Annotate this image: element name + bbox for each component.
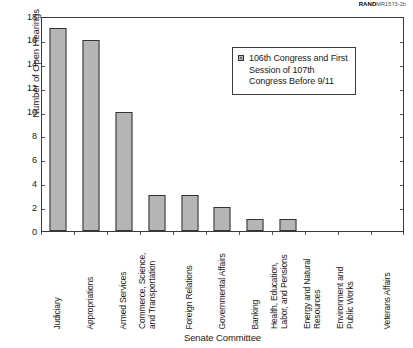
- x-label-slot: Energy and NaturalResources: [305, 237, 338, 329]
- x-tick-mark: [272, 232, 305, 236]
- y-tick-mark: [400, 137, 403, 138]
- y-tick-mark: [400, 114, 403, 115]
- x-label-slot: Judiciary: [41, 237, 74, 329]
- bar: [214, 207, 231, 231]
- x-tick-label: Governmental Affairs: [218, 253, 228, 329]
- watermark-code: MR1573-2b: [376, 1, 406, 7]
- x-tick-mark: [371, 232, 404, 236]
- y-tick-mark: [400, 66, 403, 67]
- x-tick-mark: [206, 232, 239, 236]
- x-label-slot: Banking: [239, 237, 272, 329]
- y-tick-mark: [400, 90, 403, 91]
- x-axis-ticks: [41, 232, 404, 236]
- x-tick-label: Banking: [251, 299, 261, 329]
- y-tick-mark: [42, 185, 45, 186]
- bar-slot: [42, 18, 75, 231]
- bar-slot: [108, 18, 141, 231]
- bar: [181, 195, 198, 231]
- y-tick-label: 4: [14, 180, 37, 189]
- bar: [83, 40, 100, 231]
- x-tick-label-line: and Transportation: [147, 253, 157, 329]
- x-tick-label-line: Commerce, Science,: [137, 253, 147, 329]
- x-tick-mark: [41, 232, 74, 236]
- chart-legend: 106th Congress and First Session of 107t…: [232, 47, 356, 95]
- x-tick-label: Health, Education,Labor, and Pensions: [269, 254, 288, 329]
- x-tick-label-line: Health, Education,: [269, 254, 279, 329]
- x-tick-label-line: Armed Services: [119, 271, 129, 329]
- x-tick-mark: [107, 232, 140, 236]
- y-tick-label: 14: [14, 60, 37, 69]
- x-tick-label: Energy and NaturalResources: [302, 258, 321, 329]
- x-tick-label-line: Veterans Affairs: [383, 272, 393, 329]
- x-tick-mark: [74, 232, 107, 236]
- y-tick-mark: [42, 66, 45, 67]
- x-tick-mark: [173, 232, 206, 236]
- y-tick-mark: [42, 42, 45, 43]
- x-label-slot: Armed Services: [107, 237, 140, 329]
- y-tick-label: 16: [14, 36, 37, 45]
- x-label-slot: Foreign Relations: [173, 237, 206, 329]
- x-tick-label: Judiciary: [53, 297, 63, 329]
- x-tick-label-line: Environment and: [335, 267, 345, 329]
- y-tick-mark: [400, 161, 403, 162]
- x-tick-label-line: Banking: [251, 299, 261, 329]
- rand-watermark: RANDMR1573-2b: [359, 1, 406, 7]
- y-tick-label: 6: [14, 156, 37, 165]
- y-tick-mark: [400, 209, 403, 210]
- y-tick-label: 8: [14, 132, 37, 141]
- x-tick-label: Appropriations: [86, 276, 96, 329]
- bar-slot: [370, 18, 403, 231]
- bar: [148, 195, 165, 231]
- x-label-slot: Environment andPublic Works: [338, 237, 371, 329]
- y-tick-mark: [400, 185, 403, 186]
- y-tick-mark: [400, 42, 403, 43]
- y-tick-label: 18: [14, 13, 37, 22]
- x-label-slot: Commerce, Science,and Transportation: [140, 237, 173, 329]
- x-tick-label-line: Appropriations: [86, 276, 96, 329]
- x-tick-label: Armed Services: [119, 271, 129, 329]
- y-tick-mark: [42, 90, 45, 91]
- y-tick-label: 0: [14, 228, 37, 237]
- x-tick-label-line: Judiciary: [53, 297, 63, 329]
- y-tick-mark: [42, 114, 45, 115]
- legend-label: 106th Congress and First Session of 107t…: [249, 53, 348, 88]
- bar-slot: [75, 18, 108, 231]
- x-tick-label-line: Energy and Natural: [302, 258, 312, 329]
- legend-swatch-icon: [238, 55, 244, 61]
- y-tick-label: 2: [14, 204, 37, 213]
- y-tick-label: 10: [14, 108, 37, 117]
- x-label-slot: Governmental Affairs: [206, 237, 239, 329]
- x-tick-label-line: Public Works: [345, 267, 355, 329]
- x-label-slot: Health, Education,Labor, and Pensions: [272, 237, 305, 329]
- y-tick-mark: [42, 137, 45, 138]
- bar: [116, 112, 133, 231]
- x-tick-mark: [305, 232, 338, 236]
- y-tick-mark: [42, 161, 45, 162]
- x-tick-label-line: Governmental Affairs: [218, 253, 228, 329]
- chart-figure: RANDMR1573-2b Number of Open Hearings 02…: [0, 0, 413, 348]
- x-tick-mark: [338, 232, 371, 236]
- x-tick-label: Environment andPublic Works: [335, 267, 354, 329]
- x-tick-label-line: Labor, and Pensions: [279, 254, 289, 329]
- bar: [50, 28, 67, 231]
- y-tick-mark: [42, 209, 45, 210]
- watermark-brand: RAND: [359, 1, 377, 7]
- bar: [280, 219, 297, 231]
- x-tick-label: Commerce, Science,and Transportation: [137, 253, 156, 329]
- x-label-slot: Veterans Affairs: [371, 237, 404, 329]
- y-tick-label: 12: [14, 84, 37, 93]
- x-tick-label: Foreign Relations: [185, 265, 195, 329]
- x-tick-label-line: Foreign Relations: [185, 265, 195, 329]
- bar-slot: [173, 18, 206, 231]
- y-axis-tick-labels: 024681012141618: [14, 17, 37, 232]
- x-axis-title: Senate Committee: [41, 332, 404, 343]
- bar-slot: [140, 18, 173, 231]
- x-axis-tick-labels: JudiciaryAppropriationsArmed ServicesCom…: [41, 237, 404, 329]
- x-tick-mark: [140, 232, 173, 236]
- x-tick-label-line: Resources: [312, 258, 322, 329]
- x-tick-label: Veterans Affairs: [383, 272, 393, 329]
- bar: [247, 219, 264, 231]
- x-label-slot: Appropriations: [74, 237, 107, 329]
- x-tick-mark: [239, 232, 272, 236]
